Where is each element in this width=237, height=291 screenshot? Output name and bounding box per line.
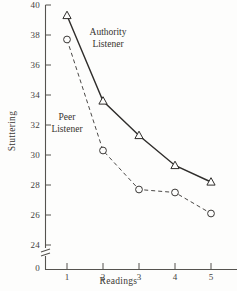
y-tick-label-40: 40 [18,0,40,10]
y-tick-label-32: 32 [18,120,40,130]
y-tick-label-28: 28 [18,180,40,190]
data-point-peer-4 [172,189,179,196]
y-tick-label-24: 24 [18,240,40,250]
y-axis-title: Stuttering [7,96,17,166]
data-point-authority-1 [63,11,71,18]
data-point-peer-3 [136,186,143,193]
data-point-peer-2 [100,147,107,154]
series-annotation-peer-listener: Peer Listener [44,111,90,135]
y-tick-label-38: 38 [18,30,40,40]
data-point-peer-1 [64,36,71,43]
x-axis-title: Readings [0,276,237,286]
y-axis-break-mark-lower [41,253,50,256]
y-tick-label-26: 26 [18,210,40,220]
y-tick-label-0: 0 [18,263,40,273]
data-point-authority-2 [99,97,107,104]
data-point-peer-5 [208,210,215,217]
y-tick-label-30: 30 [18,150,40,160]
y-tick-label-34: 34 [18,90,40,100]
stuttering-readings-line-chart: 40 38 36 34 32 30 28 26 24 0 1 2 3 4 5 S… [0,0,237,291]
y-tick-label-36: 36 [18,60,40,70]
x-axis-ticks [67,263,211,270]
y-axis-break-mark-upper [41,249,50,252]
series-annotation-authority-listener: Authority Listener [78,26,138,50]
